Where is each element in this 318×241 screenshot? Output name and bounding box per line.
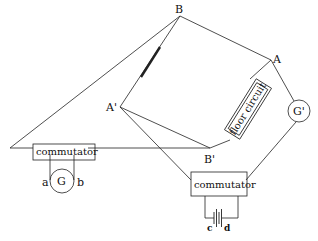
label-A-prime: A'	[105, 101, 117, 114]
floor-circuit-label: floor circuit	[227, 81, 268, 137]
lead-c	[205, 196, 214, 218]
wire-B-to-left-tip	[10, 16, 180, 148]
wire-B-to-A	[180, 16, 271, 60]
left-commutator-label: commutator	[36, 146, 98, 157]
wire-floor-circuit-to-B-prime	[210, 140, 230, 148]
label-a: a	[42, 176, 49, 189]
label-A: A	[272, 53, 282, 66]
circuit-diagram: B A A' B' commutator commutator floor ci…	[0, 0, 318, 241]
wire-A-to-G-prime	[271, 60, 294, 101]
label-c: c	[207, 223, 213, 233]
label-B: B	[175, 3, 183, 16]
label-G-prime: G'	[293, 105, 305, 118]
wire-A-prime-to-B-prime	[120, 107, 210, 148]
lead-d	[222, 196, 238, 218]
wire-G-prime-to-bottom-commutator	[246, 122, 296, 180]
label-b: b	[77, 176, 84, 189]
wire-A-prime-to-bottom-commutator	[120, 107, 191, 180]
bottom-commutator-label: commutator	[194, 179, 256, 190]
label-G: G	[57, 175, 66, 188]
label-d: d	[224, 223, 231, 233]
battery-icon	[214, 209, 222, 227]
label-B-prime: B'	[204, 153, 215, 166]
wire-A-to-floor-circuit	[250, 60, 271, 79]
thick-conductor	[141, 47, 160, 77]
